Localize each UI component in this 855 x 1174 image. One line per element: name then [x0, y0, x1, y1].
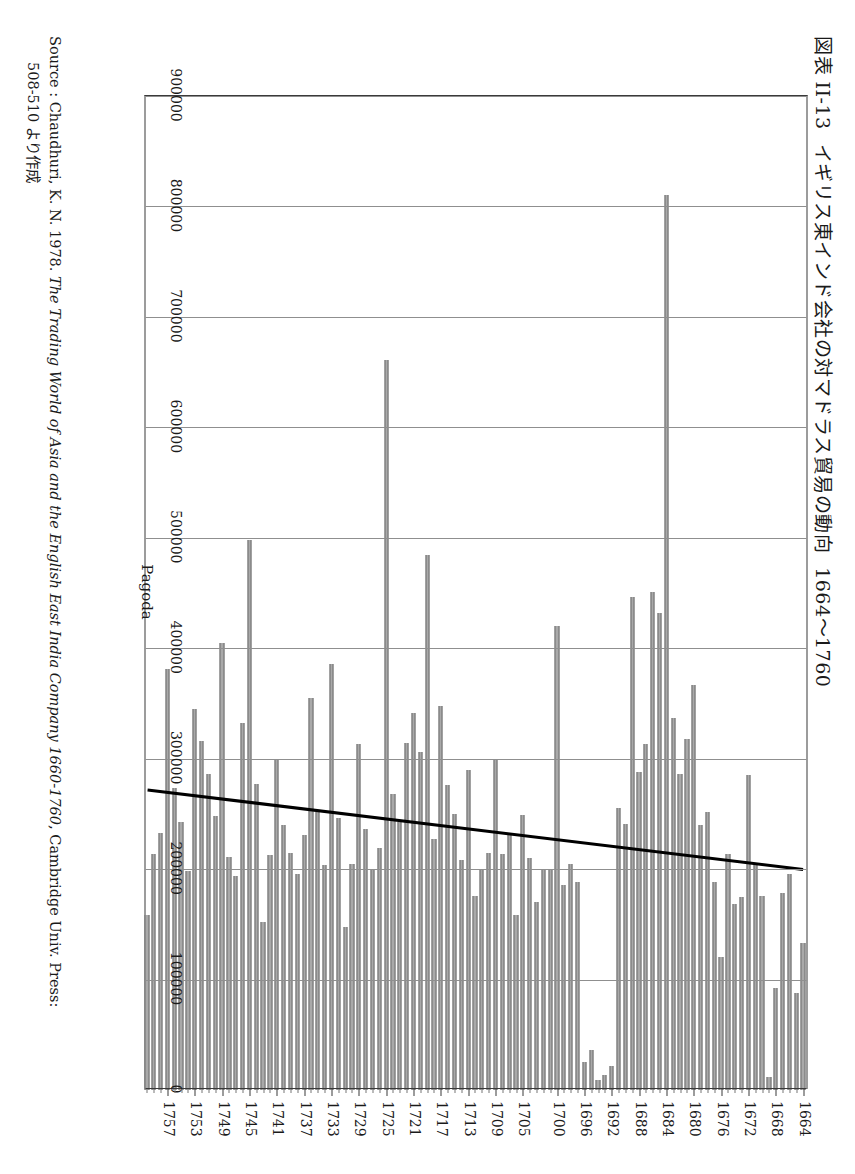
category-tick-1718	[434, 1089, 435, 1093]
value-axis-label-700000: 700000	[167, 289, 183, 342]
category-label-1717: 1717	[433, 1101, 449, 1137]
category-tick-1705	[522, 1089, 523, 1096]
gridline-400000	[145, 648, 806, 649]
category-tick-1731	[345, 1089, 346, 1093]
category-tick-1673	[741, 1089, 742, 1093]
category-label-1684: 1684	[659, 1101, 675, 1137]
category-tick-1739	[290, 1089, 291, 1093]
category-label-1709: 1709	[488, 1101, 504, 1137]
category-tick-1684	[666, 1089, 667, 1096]
category-tick-1715	[454, 1089, 455, 1093]
category-tick-1686	[652, 1089, 653, 1093]
category-tick-1728	[365, 1089, 366, 1093]
category-tick-1665	[796, 1089, 797, 1093]
category-tick-1688	[639, 1089, 640, 1096]
category-label-1688: 1688	[632, 1101, 648, 1137]
figure-title: 図表 II-13イギリス東インド会社の対マドラス貿易の動向1664〜1760	[810, 36, 837, 687]
category-label-1725: 1725	[379, 1101, 395, 1137]
category-tick-1696	[584, 1089, 585, 1096]
category-label-1713: 1713	[461, 1101, 477, 1137]
value-axis-label-900000: 900000	[167, 68, 183, 121]
category-label-1729: 1729	[351, 1101, 367, 1137]
category-tick-1677	[714, 1089, 715, 1093]
category-label-1680: 1680	[686, 1101, 702, 1137]
value-axis-label-300000: 300000	[167, 731, 183, 784]
source-label: Source :	[46, 36, 62, 102]
source-publisher: , Cambridge Univ. Press:	[46, 825, 62, 1007]
category-tick-1666	[789, 1089, 790, 1093]
category-tick-1691	[618, 1089, 619, 1093]
category-tick-1725	[386, 1089, 387, 1096]
category-tick-1700	[557, 1089, 558, 1096]
category-tick-1760	[146, 1089, 147, 1093]
category-tick-1693	[604, 1089, 605, 1093]
category-tick-1702	[543, 1089, 544, 1093]
category-tick-1690	[625, 1089, 626, 1093]
category-label-1737: 1737	[297, 1101, 313, 1137]
category-tick-1736	[310, 1089, 311, 1093]
category-tick-1683	[673, 1089, 674, 1093]
category-tick-1740	[283, 1089, 284, 1093]
category-tick-1680	[693, 1089, 694, 1096]
category-tick-1704	[529, 1089, 530, 1093]
category-label-1705: 1705	[515, 1101, 531, 1137]
value-axis-label-600000: 600000	[167, 400, 183, 453]
category-tick-1746	[242, 1089, 243, 1093]
category-tick-1738	[297, 1089, 298, 1093]
category-tick-1667	[782, 1089, 783, 1093]
category-tick-1712	[475, 1089, 476, 1093]
category-tick-1694	[598, 1089, 599, 1093]
figure-source: Source : Chaudhuri, K. N. 1978. The Trad…	[20, 36, 65, 1007]
category-tick-1750	[215, 1089, 216, 1093]
category-tick-1719	[427, 1089, 428, 1093]
category-tick-1708	[502, 1089, 503, 1093]
category-tick-1734	[324, 1089, 325, 1093]
figure-number: 図表 II-13	[811, 36, 833, 130]
category-tick-1706	[516, 1089, 517, 1093]
category-tick-1707	[509, 1089, 510, 1093]
category-tick-1698	[570, 1089, 571, 1093]
category-tick-1714	[461, 1089, 462, 1093]
category-label-1696: 1696	[577, 1101, 593, 1137]
category-label-1745: 1745	[242, 1101, 258, 1137]
value-axis-label-100000: 100000	[167, 952, 183, 1005]
category-tick-1670	[762, 1089, 763, 1093]
category-tick-1720	[420, 1089, 421, 1093]
category-label-1676: 1676	[714, 1101, 730, 1137]
category-tick-1672	[748, 1089, 749, 1096]
category-tick-1721	[413, 1089, 414, 1096]
category-tick-1701	[550, 1089, 551, 1093]
category-tick-1669	[768, 1089, 769, 1093]
value-axis-label-400000: 400000	[167, 620, 183, 673]
category-tick-1745	[249, 1089, 250, 1096]
category-tick-1726	[379, 1089, 380, 1093]
category-tick-1747	[235, 1089, 236, 1093]
category-tick-1668	[775, 1089, 776, 1096]
category-tick-1679	[700, 1089, 701, 1093]
category-tick-1709	[495, 1089, 496, 1096]
category-tick-1678	[707, 1089, 708, 1093]
category-label-1757: 1757	[160, 1101, 176, 1137]
gridline-600000	[145, 427, 806, 428]
figure-page: 図表 II-13イギリス東インド会社の対マドラス貿易の動向1664〜1760 P…	[0, 0, 855, 1174]
category-tick-1754	[187, 1089, 188, 1093]
category-tick-1664	[803, 1089, 804, 1096]
category-tick-1671	[755, 1089, 756, 1093]
category-tick-1744	[256, 1089, 257, 1093]
figure-title-years: 1664〜1760	[811, 567, 833, 687]
chart-plot-area	[144, 95, 807, 1089]
category-label-1672: 1672	[741, 1101, 757, 1137]
category-tick-1685	[659, 1089, 660, 1093]
category-tick-1741	[276, 1089, 277, 1096]
category-tick-1722	[406, 1089, 407, 1093]
category-tick-1743	[263, 1089, 264, 1093]
category-label-1668: 1668	[768, 1101, 784, 1137]
category-label-1749: 1749	[215, 1101, 231, 1137]
category-tick-1676	[721, 1089, 722, 1096]
gridline-200000	[145, 869, 806, 870]
category-tick-1675	[727, 1089, 728, 1093]
category-label-1692: 1692	[604, 1101, 620, 1137]
category-tick-1749	[222, 1089, 223, 1096]
category-tick-1732	[338, 1089, 339, 1093]
source-author-year: Chaudhuri, K. N. 1978.	[46, 102, 62, 276]
